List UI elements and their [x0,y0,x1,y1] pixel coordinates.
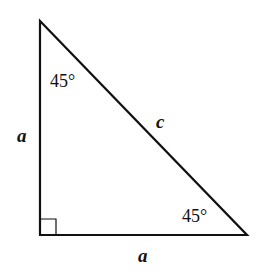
top-angle-label: 45° [50,71,75,91]
right-angle-marker [40,219,56,235]
bottom-leg-label: a [138,245,148,266]
left-leg-label: a [17,125,27,146]
triangle-shape [40,21,247,235]
bottom-right-angle-label: 45° [182,206,207,226]
triangle-diagram: 45° c a 45° a [0,0,258,277]
hypotenuse-label: c [156,111,165,132]
